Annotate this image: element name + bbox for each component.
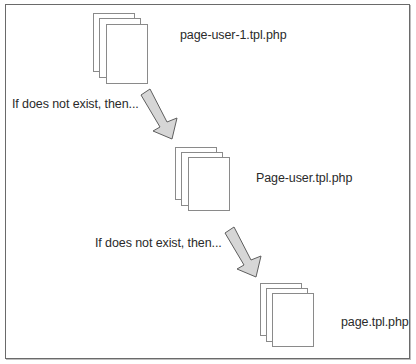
document-stack-icon <box>94 14 148 84</box>
arrow-down-right-icon <box>141 89 177 139</box>
edge-label-fallback-2: If does not exist, then... <box>95 236 222 250</box>
node-label-page-user: Page-user.tpl.php <box>256 171 352 185</box>
document-stack-icon <box>176 148 230 211</box>
node-label-page-user-1: page-user-1.tpl.php <box>180 28 287 42</box>
diagram-canvas <box>0 0 416 364</box>
node-label-page: page.tpl.php <box>341 315 409 329</box>
arrow-down-right-icon <box>225 227 261 277</box>
document-stack-icon <box>261 284 314 347</box>
edge-label-fallback-1: If does not exist, then... <box>12 97 139 111</box>
